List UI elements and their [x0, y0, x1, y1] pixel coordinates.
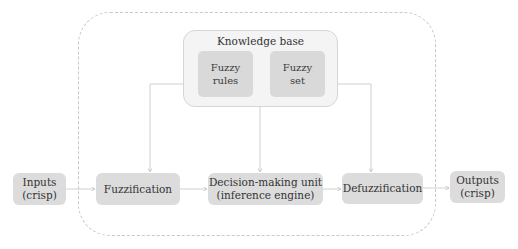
fuzzification-node: Fuzzification — [96, 173, 180, 205]
knowledge-base: Knowledge base Fuzzy rules Fuzzy set — [183, 30, 338, 107]
inputs-node: Inputs (crisp) — [13, 173, 66, 205]
defuzzification-node: Defuzzification — [342, 173, 423, 204]
decision-making-unit-node: Decision-making unit (inference engine) — [208, 173, 323, 205]
knowledge-base-title: Knowledge base — [184, 35, 337, 47]
outputs-node: Outputs (crisp) — [450, 171, 505, 203]
arrow-kb-to-fuzzification — [150, 84, 183, 172]
fuzzy-rules-box: Fuzzy rules — [198, 51, 253, 97]
fuzzy-set-box: Fuzzy set — [270, 51, 325, 97]
arrow-kb-to-defuzzification — [338, 84, 371, 172]
